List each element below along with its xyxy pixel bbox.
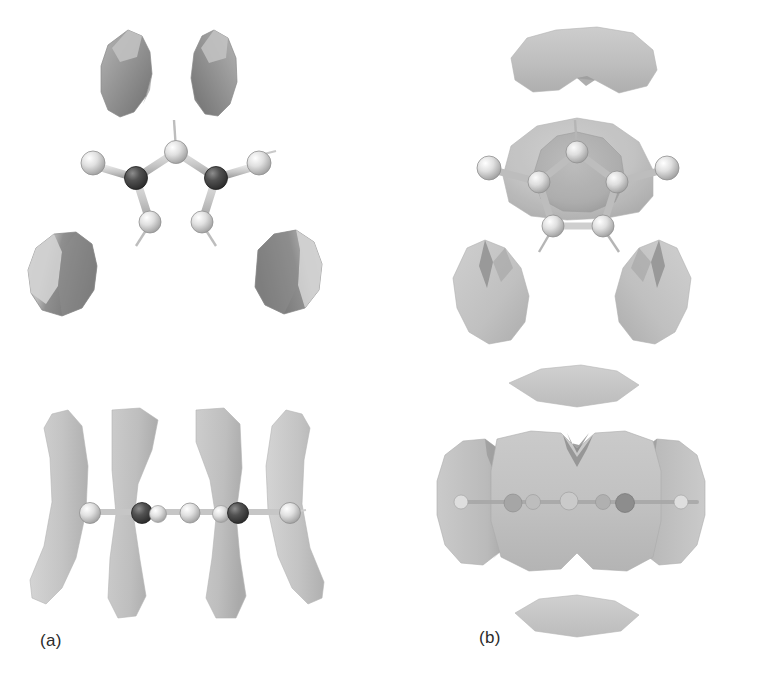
chain-atom-2 <box>504 494 522 512</box>
chain-atom-7 <box>674 495 688 509</box>
chain-atom-7 <box>280 503 301 524</box>
panel-b-label: (b) <box>479 628 501 648</box>
molecule-ring-top-a <box>81 120 276 246</box>
chain-atom-3 <box>526 495 541 510</box>
atom-right-heteroatom <box>606 171 628 193</box>
isosurface-crescent-outer-left <box>30 410 88 604</box>
atom-apex <box>165 141 188 164</box>
panel-a: (a) <box>0 0 380 678</box>
atom-right-heteroatom <box>205 167 228 190</box>
chain-atom-1 <box>80 503 101 524</box>
panel-b-top-view <box>381 0 761 345</box>
isosurface-lobe-lower-right <box>255 230 322 314</box>
chain-atom-5 <box>596 495 611 510</box>
atom-lower-left <box>542 215 564 237</box>
atom-substituent-right <box>247 151 271 175</box>
panel-b: (b) <box>381 0 761 678</box>
atom-lower-right <box>191 211 213 233</box>
chain-atom-1 <box>454 495 468 509</box>
atom-lower-right <box>592 215 614 237</box>
isosurface-lobe-lower-left-teardrop <box>453 240 529 344</box>
atom-substituent-left <box>477 156 501 180</box>
atom-substituent-left <box>81 151 105 175</box>
figure-root: (a) <box>0 0 761 678</box>
isosurface-lobe-lower-left <box>28 232 97 316</box>
atom-left-heteroatom <box>125 167 148 190</box>
isosurface-lobe-central-envelope <box>503 118 653 220</box>
isosurface-lobe-lower-right-teardrop <box>615 240 691 344</box>
chain-atom-6 <box>228 503 249 524</box>
chain-atom-3 <box>150 506 167 523</box>
chain-atom-6 <box>616 494 635 513</box>
panel-a-label: (a) <box>40 631 62 651</box>
isosurface-lobe-upper-left <box>101 30 152 117</box>
isosurface-lobe-top-kidney <box>511 27 657 93</box>
chain-atom-5 <box>213 506 230 523</box>
atom-substituent-right <box>655 156 679 180</box>
panel-b-edge-view <box>381 345 761 645</box>
panel-a-edge-view <box>0 380 380 630</box>
atom-left-heteroatom <box>528 171 550 193</box>
atom-apex <box>566 141 588 163</box>
isosurface-lobe-upper-right <box>191 30 237 116</box>
isosurface-lens-upper <box>509 365 639 407</box>
isosurface-lens-lower <box>515 595 639 637</box>
chain-atom-4 <box>560 492 578 510</box>
chain-atom-4 <box>180 503 200 523</box>
panel-a-top-view <box>0 0 380 340</box>
atom-lower-left <box>139 211 161 233</box>
